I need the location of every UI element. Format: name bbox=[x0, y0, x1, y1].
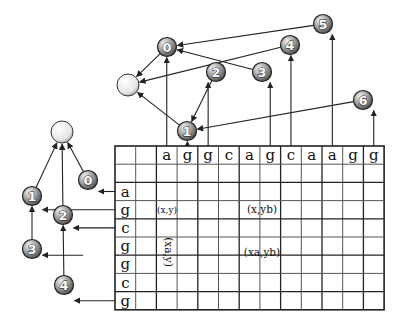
left-node-2: 2 bbox=[54, 206, 73, 225]
left-tree-edge bbox=[63, 225, 64, 275]
column-header-char: c bbox=[225, 146, 233, 164]
row-header-char: g bbox=[121, 201, 131, 219]
top-tree-edge bbox=[192, 81, 212, 122]
row-header-char: c bbox=[121, 274, 129, 292]
node-label: 5 bbox=[318, 17, 327, 32]
left-tree-edge bbox=[68, 143, 84, 172]
left-tree-edge bbox=[36, 143, 57, 188]
left-node-4: 4 bbox=[55, 276, 74, 295]
cell-coordinate-label: (xa,yb) bbox=[244, 246, 280, 258]
column-header-char: g bbox=[265, 146, 275, 164]
node-label: 3 bbox=[257, 65, 266, 80]
column-header-char: g bbox=[348, 146, 358, 164]
column-header-char: a bbox=[162, 146, 171, 164]
node-label: 2 bbox=[58, 208, 67, 223]
node-label: 1 bbox=[182, 124, 191, 139]
column-header-char: g bbox=[203, 146, 213, 164]
node-label: 2 bbox=[211, 65, 220, 80]
column-header-char: a bbox=[307, 146, 316, 164]
left-root-node bbox=[51, 121, 73, 143]
column-header-char: a bbox=[328, 146, 337, 164]
row-header-char: g bbox=[121, 292, 131, 310]
node-label: 1 bbox=[27, 189, 36, 204]
cell-coordinate-label: (x,y) bbox=[157, 205, 177, 215]
left-tree-edge bbox=[62, 144, 63, 206]
top-node-5: 5 bbox=[314, 15, 333, 34]
top-tree-edge bbox=[137, 54, 161, 77]
suffix-tree-alignment-diagram: aggcagcaaggagcggcg(x,y)(x,yb)(xa,y)(xa,y… bbox=[0, 0, 400, 325]
node-label: 4 bbox=[59, 278, 68, 293]
top-tree-edge bbox=[137, 92, 179, 125]
column-header-char: a bbox=[245, 146, 254, 164]
node-label: 6 bbox=[358, 93, 367, 108]
node-label: 0 bbox=[83, 173, 92, 188]
top-node-6: 6 bbox=[354, 91, 373, 110]
node-label: 0 bbox=[162, 40, 171, 55]
column-header-char: g bbox=[369, 146, 379, 164]
left-node-3: 3 bbox=[23, 240, 42, 259]
top-node-3: 3 bbox=[253, 63, 272, 82]
column-header-char: g bbox=[183, 146, 193, 164]
row-header-char: g bbox=[121, 237, 131, 255]
dp-matrix: aggcagcaaggagcggcg(x,y)(x,yb)(xa,y)(xa,y… bbox=[115, 146, 384, 310]
left-node-0: 0 bbox=[79, 171, 98, 190]
node-label: 3 bbox=[27, 242, 36, 257]
row-header-char: g bbox=[121, 255, 131, 273]
cell-coordinate-label: (x,yb) bbox=[247, 203, 277, 215]
column-header-char: c bbox=[287, 146, 295, 164]
top-node-4: 4 bbox=[281, 36, 300, 55]
top-node-1: 1 bbox=[178, 122, 197, 141]
row-header-char: c bbox=[121, 219, 129, 237]
top-node-0: 0 bbox=[158, 38, 177, 57]
cell-coordinate-label: (xa,y) bbox=[163, 237, 175, 267]
diagram-canvas: aggcagcaaggagcggcg(x,y)(x,yb)(xa,y)(xa,y… bbox=[0, 0, 400, 325]
top-tree-edge bbox=[197, 102, 353, 130]
row-header-char: a bbox=[121, 183, 130, 201]
left-node-1: 1 bbox=[23, 187, 42, 206]
matrix-border bbox=[115, 146, 384, 310]
top-root-node bbox=[117, 74, 139, 96]
node-label: 4 bbox=[285, 38, 294, 53]
top-node-2: 2 bbox=[207, 63, 226, 82]
